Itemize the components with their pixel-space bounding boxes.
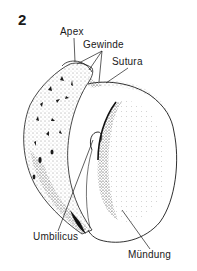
label-umbilicus: Umbilicus <box>33 231 78 242</box>
shell-spire <box>24 63 93 234</box>
label-muendung: Mündung <box>128 249 171 260</box>
label-sutura: Sutura <box>112 56 143 67</box>
label-gewinde: Gewinde <box>83 39 124 50</box>
label-apex: Apex <box>60 26 84 37</box>
